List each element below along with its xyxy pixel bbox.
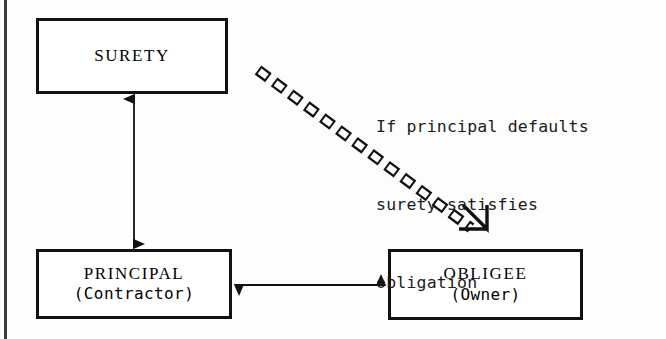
box-principal-subtitle: (Contractor) — [74, 284, 194, 305]
box-principal: PRINCIPAL (Contractor) — [36, 249, 232, 319]
annotation-line-2: surety satisfies — [376, 192, 666, 218]
box-surety: SURETY — [36, 18, 228, 94]
box-principal-title: PRINCIPAL — [84, 263, 185, 284]
box-surety-title: SURETY — [94, 45, 170, 66]
annotation-line-3: obligation — [376, 270, 666, 296]
page-edge-line — [4, 0, 7, 339]
annotation-text: If principal defaults surety satisfies o… — [376, 62, 666, 339]
annotation-line-1: If principal defaults — [376, 114, 666, 140]
diagram-canvas: SURETY PRINCIPAL (Contractor) OBLIGEE (O… — [0, 0, 666, 339]
